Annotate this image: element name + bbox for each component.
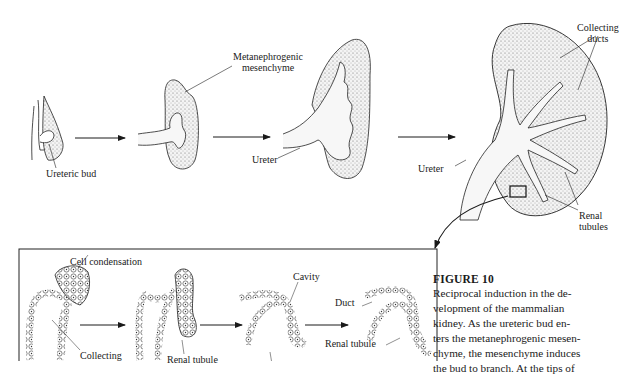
stage-4-mature-kidney: [455, 23, 607, 220]
caption-line: ters the metanephrogenic mesen-: [433, 331, 642, 346]
figure-caption: FIGURE 10 Reciprocal induction in the de…: [433, 272, 642, 376]
label-collecting-line1: Collecting: [577, 22, 619, 33]
label-renal-line1: Renal: [579, 210, 608, 221]
stage-1-ureteric-bud: [32, 96, 63, 168]
caption-line: the bud to branch. At the tips of: [433, 361, 642, 376]
stage-2-bud-entering-mesenchyme: [138, 66, 232, 169]
label-collecting-ducts: Collecting ducts: [577, 22, 619, 44]
label-ureter-stage3: Ureter: [252, 154, 278, 165]
caption-line: velopment of the mammalian: [433, 301, 642, 316]
label-metanephrogenic-mesenchyme: Metanephrogenic mesenchyme: [233, 51, 303, 73]
label-cavity: Cavity: [293, 271, 320, 282]
label-renal-tubule-1: Renal tubule: [167, 354, 218, 365]
label-renal-tubule-2: Renal tubule: [325, 338, 376, 349]
inset-stage-b: [139, 269, 196, 360]
caption-line: chyme, the mesenchyme induces: [433, 346, 642, 361]
label-duct: Duct: [335, 297, 354, 308]
label-metanephrogenic-line2: mesenchyme: [233, 62, 303, 73]
label-metanephrogenic-line1: Metanephrogenic: [233, 51, 303, 62]
label-ureteric-bud: Ureteric bud: [46, 168, 96, 179]
label-renal-tubules: Renal tubules: [579, 210, 608, 232]
caption-title: FIGURE 10: [433, 272, 642, 286]
label-ureter-stage4: Ureter: [418, 163, 444, 174]
caption-line: Reciprocal induction in the de-: [433, 286, 642, 301]
label-collecting: Collecting: [80, 350, 122, 361]
inset-stage-c: [240, 282, 305, 361]
caption-body: Reciprocal induction in the de- velopmen…: [433, 286, 642, 376]
label-cell-condensation: Cell condensation: [70, 256, 142, 267]
label-renal-line2: tubules: [579, 221, 608, 232]
caption-line: kidney. As the ureteric bud en-: [433, 316, 642, 331]
inset-stage-a: [29, 255, 89, 360]
label-collecting-line2: ducts: [577, 33, 619, 44]
